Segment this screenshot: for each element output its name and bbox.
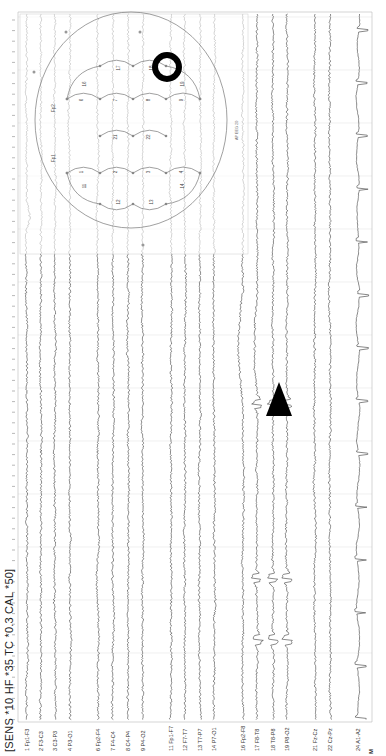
svg-text:Fp1: Fp1 <box>51 154 56 162</box>
svg-text:21: 21 <box>113 134 118 140</box>
svg-text:12: 12 <box>116 199 121 205</box>
svg-text:16: 16 <box>82 81 87 87</box>
svg-text:17: 17 <box>116 65 121 71</box>
eeg-recording-canvas: 1234678921221112131416171819Fp1Fp2AP EEG… <box>0 0 386 756</box>
svg-text:Fp2: Fp2 <box>51 104 56 112</box>
svg-text:AP EEG 20: AP EEG 20 <box>235 121 239 140</box>
svg-text:11: 11 <box>82 183 87 188</box>
svg-text:19: 19 <box>180 81 185 87</box>
svg-text:22: 22 <box>146 134 151 140</box>
electrode-head-map: 1234678921221112131416171819Fp1Fp2AP EEG… <box>20 12 248 254</box>
svg-text:14: 14 <box>180 183 185 189</box>
time-scale-ticks <box>12 20 15 720</box>
svg-text:13: 13 <box>149 199 154 205</box>
arrowhead-marker <box>266 382 292 416</box>
